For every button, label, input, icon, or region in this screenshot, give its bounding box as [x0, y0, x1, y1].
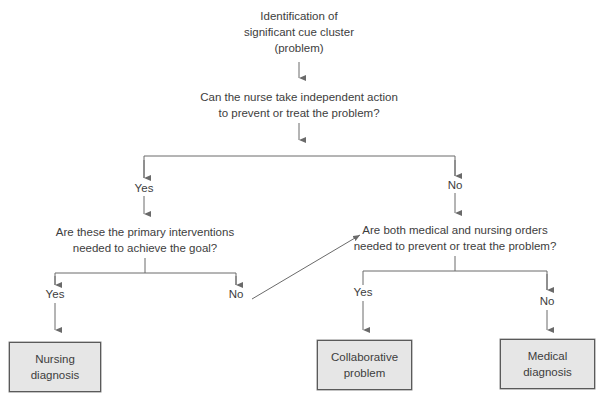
- q1-line2: to prevent or treat the problem?: [200, 105, 398, 121]
- q2-line2: needed to achieve the goal?: [56, 240, 234, 256]
- nursing-line1: Nursing: [31, 351, 80, 367]
- q2-no-label: No: [229, 286, 244, 302]
- outcome-medical-diagnosis: Medical diagnosis: [500, 339, 595, 389]
- q2-yes-label: Yes: [46, 286, 65, 302]
- medical-line2: diagnosis: [523, 364, 572, 380]
- medical-line1: Medical: [523, 348, 572, 364]
- question-medical-and-nursing-orders: Are both medical and nursing orders need…: [354, 222, 557, 254]
- question-primary-interventions: Are these the primary interventions need…: [56, 224, 234, 256]
- start-line2: significant cue cluster: [244, 24, 354, 40]
- start-line3: (problem): [244, 40, 354, 56]
- q3-yes-label: Yes: [354, 284, 373, 300]
- outcome-collaborative-problem: Collaborative problem: [317, 340, 412, 390]
- question-independent-action: Can the nurse take independent action to…: [200, 89, 398, 121]
- start-line1: Identification of: [244, 8, 354, 24]
- collaborative-line1: Collaborative: [331, 349, 398, 365]
- q1-line1: Can the nurse take independent action: [200, 89, 398, 105]
- collaborative-line2: problem: [331, 365, 398, 381]
- q3-line1: Are both medical and nursing orders: [354, 222, 557, 238]
- nursing-line2: diagnosis: [31, 367, 80, 383]
- q1-no-label: No: [448, 177, 463, 193]
- q2-line1: Are these the primary interventions: [56, 224, 234, 240]
- q3-no-label: No: [540, 293, 555, 309]
- outcome-nursing-diagnosis: Nursing diagnosis: [9, 342, 101, 392]
- q1-yes-label: Yes: [135, 180, 154, 196]
- q3-line2: needed to prevent or treat the problem?: [354, 238, 557, 254]
- start-node: Identification of significant cue cluste…: [244, 8, 354, 56]
